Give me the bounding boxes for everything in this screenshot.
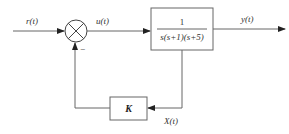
feedback-sign: −	[80, 44, 85, 54]
gain-label: K	[124, 103, 133, 114]
feedback-path: X(t)	[148, 50, 182, 126]
input-signal: r(t)	[13, 16, 64, 31]
plant-block: 1 s(s+1)(s+5)	[151, 8, 213, 50]
feedback-signal-label: X(t)	[163, 116, 178, 126]
gain-block: K	[110, 97, 147, 120]
block-diagram: r(t) − u(t) 1 s(s+1)(s+5) y(t) X(t) K	[0, 0, 289, 134]
output-signal: y(t)	[213, 14, 285, 29]
plant-numerator: 1	[180, 17, 185, 27]
summing-junction: −	[65, 20, 87, 54]
input-label: r(t)	[26, 16, 38, 26]
error-label: u(t)	[96, 16, 109, 26]
error-signal: u(t)	[87, 16, 150, 31]
plant-denominator: s(s+1)(s+5)	[160, 32, 204, 42]
output-label: y(t)	[240, 14, 254, 24]
